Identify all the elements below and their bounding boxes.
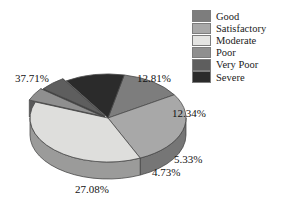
- legend-label: Very Poor: [216, 59, 258, 70]
- legend-item-good: Good: [192, 10, 284, 22]
- legend-label: Severe: [216, 72, 245, 83]
- slice-label-severe: 12.34%: [172, 107, 206, 119]
- legend-item-very-poor: Very Poor: [192, 59, 284, 71]
- slice-label-moderate: 37.71%: [15, 72, 49, 84]
- chart-legend: Good Satisfactory Moderate Poor Very Poo…: [192, 10, 284, 83]
- legend-label: Good: [216, 11, 239, 22]
- legend-item-moderate: Moderate: [192, 34, 284, 46]
- legend-swatch-icon: [192, 23, 211, 34]
- legend-label: Satisfactory: [216, 23, 266, 34]
- legend-label: Moderate: [216, 35, 256, 46]
- slice-label-satisfactory: 27.08%: [75, 183, 109, 195]
- legend-swatch-icon: [192, 47, 211, 58]
- slice-label-poor: 4.73%: [152, 166, 180, 178]
- legend-label: Poor: [216, 47, 236, 58]
- slice-label-very-poor: 5.33%: [174, 153, 202, 165]
- legend-swatch-icon: [192, 35, 211, 46]
- legend-swatch-icon: [192, 10, 211, 21]
- slice-label-good: 12.81%: [137, 72, 171, 84]
- legend-item-severe: Severe: [192, 71, 284, 83]
- pie-chart-figure: 37.71% 12.81% 12.34% 5.33% 4.73% 27.08% …: [0, 0, 287, 210]
- legend-swatch-icon: [192, 71, 211, 82]
- legend-swatch-icon: [192, 59, 211, 70]
- pie-slice-tops: [29, 74, 186, 162]
- legend-item-poor: Poor: [192, 47, 284, 59]
- legend-item-satisfactory: Satisfactory: [192, 22, 284, 34]
